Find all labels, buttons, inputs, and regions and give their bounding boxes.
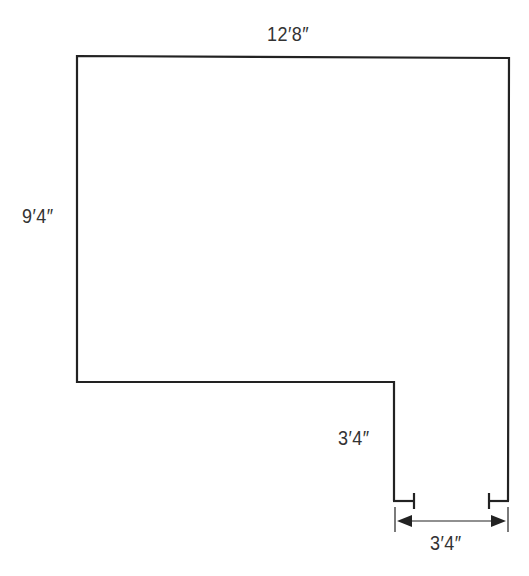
opening-dimension (395, 507, 508, 532)
notch-height-label: 3′4″ (338, 427, 370, 450)
room-outline (77, 56, 509, 509)
left-height-label: 9′4″ (22, 205, 54, 228)
arrowhead-right-icon (491, 515, 506, 527)
top-width-label: 12′8″ (267, 23, 309, 46)
room-walls (77, 56, 509, 501)
floor-plan-drawing (0, 0, 529, 576)
opening-width-label: 3′4″ (430, 532, 462, 555)
arrowhead-left-icon (397, 515, 412, 527)
